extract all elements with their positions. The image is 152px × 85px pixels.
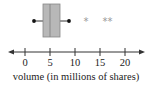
tick-label: 5	[47, 57, 52, 68]
number-line-axis: 05101520	[8, 48, 145, 68]
outlier-marker: *	[84, 16, 89, 27]
box-plot: ***	[32, 4, 112, 37]
x-axis-label: volume (in millions of shares)	[13, 71, 140, 83]
tick-label: 0	[22, 57, 27, 68]
left-arrow-icon	[8, 50, 14, 55]
iqr-box	[43, 4, 60, 37]
tick-label: 10	[70, 57, 81, 68]
min-whisker-dot	[32, 19, 36, 23]
right-arrow-icon	[139, 50, 145, 55]
tick-label: 15	[95, 57, 106, 68]
max-whisker-dot	[67, 19, 71, 23]
outlier-marker: *	[108, 16, 113, 27]
box-plot-chart: *** 05101520 volume (in millions of shar…	[0, 0, 152, 85]
tick-label: 20	[120, 57, 131, 68]
